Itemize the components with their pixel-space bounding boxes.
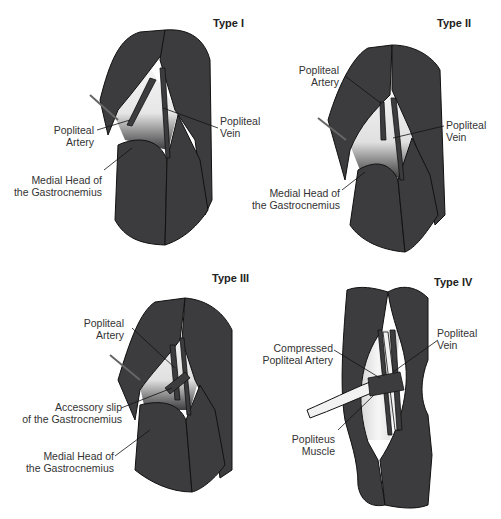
panel-title: Type IV	[434, 276, 472, 288]
label-popliteal-artery: Popliteal Artery	[54, 124, 94, 148]
type-4-illustration	[250, 260, 501, 519]
panel-type-1: Type I Popliteal Artery Popliteal Vein M…	[0, 0, 250, 259]
panel-type-3: Type III Popliteal Artery Accessory slip…	[0, 260, 250, 519]
label-medial-head-gastrocnemius: Medial Head of the Gastrocnemius	[26, 450, 114, 474]
label-popliteal-vein: Popliteal Vein	[446, 119, 486, 143]
label-popliteal-artery: Popliteal Artery	[299, 64, 339, 88]
label-accessory-slip-gastrocnemius: Accessory slip of the Gastrocnemius	[22, 401, 122, 425]
label-popliteus-muscle: Popliteus Muscle	[292, 433, 335, 457]
panel-type-4: Type IV Compressed Popliteal Artery Popl…	[250, 260, 500, 519]
label-medial-head-gastrocnemius: Medial Head of the Gastrocnemius	[14, 174, 102, 198]
panel-type-2: Type II Popliteal Artery Popliteal Vein …	[250, 0, 500, 259]
label-popliteal-vein: Popliteal Vein	[437, 327, 477, 351]
panel-title: Type II	[437, 17, 471, 29]
type-1-illustration	[0, 0, 250, 259]
label-popliteal-artery: Popliteal Artery	[84, 317, 124, 341]
label-medial-head-gastrocnemius: Medial Head of the Gastrocnemius	[252, 187, 340, 211]
panel-title: Type III	[212, 272, 249, 284]
label-compressed-popliteal-artery: Compressed Popliteal Artery	[262, 342, 333, 366]
panel-title: Type I	[213, 17, 244, 29]
type-3-illustration	[0, 260, 250, 519]
